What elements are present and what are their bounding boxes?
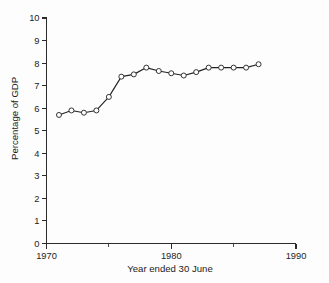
y-tick-label: 7 xyxy=(34,81,39,91)
y-tick-label: 2 xyxy=(34,194,39,204)
x-tick-label: 1980 xyxy=(161,251,182,261)
data-point-marker xyxy=(181,73,186,78)
data-point-marker xyxy=(194,70,199,75)
data-series-group xyxy=(56,62,261,118)
data-point-marker xyxy=(169,71,174,76)
y-tick-label: 0 xyxy=(34,239,39,249)
x-tick-label: 1990 xyxy=(286,251,307,261)
data-point-marker xyxy=(56,112,61,117)
y-tick-label: 4 xyxy=(34,149,39,159)
data-point-marker xyxy=(256,62,261,67)
line-chart-canvas: Percentage of GDP Year ended 30 June 012… xyxy=(0,0,329,283)
data-point-marker xyxy=(156,68,161,73)
y-tick-label: 8 xyxy=(34,59,39,69)
data-point-marker xyxy=(144,65,149,70)
data-point-marker xyxy=(219,65,224,70)
x-axis-ticks: 197019801990 xyxy=(36,244,306,261)
chart-figure: Percentage of GDP Year ended 30 June 012… xyxy=(0,0,329,283)
data-point-marker xyxy=(106,94,111,99)
x-tick-label: 1970 xyxy=(36,251,57,261)
y-tick-label: 5 xyxy=(34,126,39,136)
data-point-marker xyxy=(206,65,211,70)
y-tick-label: 10 xyxy=(29,13,39,23)
data-point-marker xyxy=(69,108,74,113)
data-point-marker xyxy=(81,110,86,115)
y-tick-label: 9 xyxy=(34,36,39,46)
data-point-marker xyxy=(119,74,124,79)
data-point-marker xyxy=(231,65,236,70)
y-axis-ticks: 012345678910 xyxy=(29,13,46,249)
y-tick-label: 1 xyxy=(34,216,39,226)
data-point-marker xyxy=(244,65,249,70)
y-axis-label: Percentage of GDP xyxy=(9,77,20,160)
data-point-marker xyxy=(131,72,136,77)
x-axis-label: Year ended 30 June xyxy=(127,263,213,274)
y-tick-label: 3 xyxy=(34,171,39,181)
data-point-marker xyxy=(94,108,99,113)
y-tick-label: 6 xyxy=(34,104,39,114)
